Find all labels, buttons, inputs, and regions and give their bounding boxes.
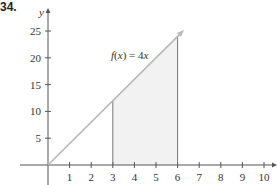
chart-canvas: 34. y12345678910510152025f(x) = 4x	[0, 0, 277, 185]
x-tick-label: 2	[88, 171, 94, 183]
problem-number: 34.	[0, 0, 17, 14]
x-tick-label: 9	[240, 171, 246, 183]
x-tick-label: 6	[175, 171, 181, 183]
x-tick-label: 10	[259, 171, 271, 183]
y-tick-label: 20	[30, 52, 42, 64]
plot-area: y12345678910510152025f(x) = 4x	[20, 6, 277, 185]
y-axis-label: y	[38, 6, 44, 18]
x-tick-label: 4	[132, 171, 138, 183]
y-tick-label: 5	[36, 132, 42, 144]
x-tick-label: 5	[153, 171, 159, 183]
function-label: f(x) = 4x	[111, 49, 149, 62]
x-tick-label: 1	[67, 171, 73, 183]
x-tick-label: 7	[196, 171, 202, 183]
x-axis-arrow-icon	[272, 163, 277, 168]
y-tick-label: 10	[30, 105, 42, 117]
x-tick-label: 3	[110, 171, 116, 183]
y-tick-label: 25	[30, 25, 42, 37]
y-tick-label: 15	[30, 79, 42, 91]
x-tick-label: 8	[218, 171, 224, 183]
y-axis-arrow-icon	[46, 8, 51, 13]
